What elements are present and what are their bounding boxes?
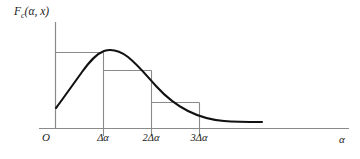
origin-label: O (42, 132, 50, 143)
y-axis-label-args: (α, x) (25, 5, 50, 17)
xtick-label-delta-alpha: Δα (97, 133, 109, 144)
xtick-label-3delta-alpha: 3Δα (191, 133, 208, 144)
x-axis-label: α (339, 134, 345, 145)
y-axis-label-symbol: F (14, 5, 21, 17)
distribution-curve (56, 50, 262, 122)
figure-panel: Fc(α, x) O Δα 2Δα 3Δα α (0, 0, 360, 159)
xtick-label-2delta-alpha: 2Δα (143, 133, 160, 144)
y-axis-label: Fc(α, x) (14, 6, 49, 20)
plot-canvas (0, 0, 360, 159)
